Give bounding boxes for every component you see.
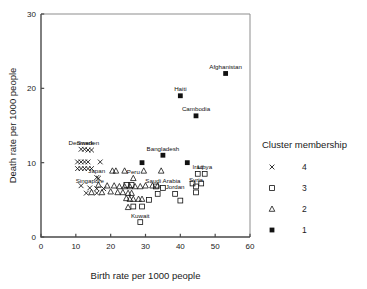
y-axis-title: Death rate per 1000 people [7,68,18,184]
x-tick-label: 60 [246,242,255,251]
x-tick-label: 20 [106,242,115,251]
data-point-cluster-2 [108,189,114,194]
data-point-label: Peru [127,168,141,175]
data-point-label: Japan [88,167,105,174]
data-point-label: Haiti [174,85,186,92]
data-point-label: Libya [197,163,212,170]
data-point-cluster-2 [137,183,143,188]
legend-marker-4 [270,165,275,170]
x-tick-label: 50 [211,242,220,251]
legend-title: Cluster membership [262,139,347,150]
data-point-cluster-2 [111,183,117,188]
legend-marker-2 [269,206,275,211]
data-point-cluster-3 [194,184,199,189]
data-point-cluster-2 [141,168,147,173]
data-point-cluster-3 [138,220,143,225]
legend-entry-label: 3 [302,183,307,193]
data-point-cluster-4 [94,191,99,196]
x-tick-label: 0 [39,242,44,251]
plot-axes [41,14,250,237]
data-point-cluster-3 [147,197,152,202]
x-tick-label: 10 [71,242,80,251]
data-point-label: Syria [189,176,204,183]
data-point-cluster-2 [127,183,133,188]
data-point-cluster-2 [120,189,126,194]
y-tick-label: 10 [27,159,36,168]
data-point-cluster-1 [178,93,183,98]
data-point-cluster-3 [155,191,160,196]
legend-entry-label: 1 [302,225,307,235]
data-point-label: Singapore [76,177,105,184]
data-point-cluster-3 [131,204,136,209]
data-point-cluster-4 [87,186,92,191]
data-point-cluster-3 [161,186,166,191]
legend-marker-1 [270,228,275,233]
data-point-cluster-3 [140,204,145,209]
y-tick-label: 30 [27,10,36,19]
legend-marker-3 [270,186,275,191]
legend-entry-label: 4 [302,162,307,172]
data-point-cluster-2 [124,195,130,200]
data-point-label: Jordan [166,183,185,190]
data-point-cluster-1 [194,113,199,118]
data-point-label: Bangladesh [147,145,180,152]
chart-canvas: 01020304050600102030Birth rate per 1000 … [0,0,367,289]
data-point-label: Afghanistan [209,63,242,70]
scatter-plot-figure: 01020304050600102030Birth rate per 1000 … [0,0,367,289]
data-point-cluster-4 [89,148,94,153]
data-point-label: Cambodia [182,105,211,112]
data-point-cluster-2 [132,183,138,188]
y-tick-label: 20 [27,84,36,93]
data-point-cluster-3 [173,191,178,196]
data-point-cluster-1 [185,160,190,165]
data-point-cluster-3 [178,198,183,203]
data-point-cluster-4 [98,160,103,165]
data-point-cluster-1 [140,160,145,165]
data-point-cluster-2 [122,183,128,188]
x-tick-label: 40 [176,242,185,251]
data-point-cluster-1 [223,71,228,76]
data-point-cluster-3 [194,190,199,195]
data-point-label: Sweden [77,139,100,146]
data-point-cluster-4 [82,147,87,152]
data-point-cluster-4 [84,191,89,196]
data-point-cluster-1 [161,153,166,158]
data-point-cluster-2 [125,204,131,209]
data-point-cluster-4 [86,160,91,165]
y-tick-label: 0 [32,233,37,242]
data-point-cluster-2 [158,168,164,173]
x-tick-label: 30 [141,242,150,251]
data-point-cluster-2 [117,183,123,188]
x-axis-title: Birth rate per 1000 people [91,270,201,281]
data-point-cluster-2 [115,189,121,194]
data-point-cluster-2 [131,175,137,180]
plot-frame [41,14,250,237]
legend-entry-label: 2 [302,204,307,214]
data-point-label: Kuwait [131,212,150,219]
